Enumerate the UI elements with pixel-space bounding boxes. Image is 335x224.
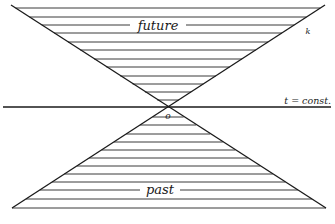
future-label: future: [137, 18, 179, 33]
light-cone-diagram: future past o t = const. k: [0, 0, 335, 224]
past-label: past: [146, 182, 175, 197]
time-slice-label: t = const.: [284, 95, 331, 106]
origin-label: o: [165, 111, 171, 121]
cone-edge-label: k: [306, 27, 311, 36]
